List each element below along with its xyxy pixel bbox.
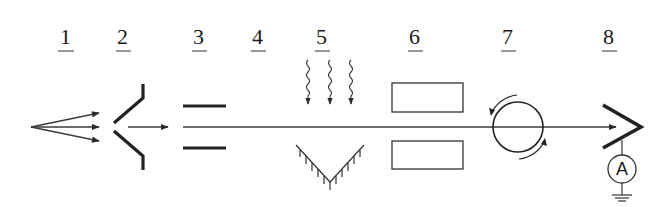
label-6-text: 6 — [409, 24, 420, 49]
label-4-text: 4 — [252, 24, 263, 49]
rectangular-electrodes-icon — [392, 83, 463, 169]
label-6: 6 — [408, 24, 423, 51]
label-1-text: 1 — [60, 24, 71, 49]
label-5-text: 5 — [316, 24, 327, 49]
label-3-text: 3 — [193, 24, 204, 49]
ammeter-icon: A — [608, 140, 636, 195]
label-7-text: 7 — [502, 24, 513, 49]
label-8-text: 8 — [603, 24, 614, 49]
label-5: 5 — [315, 24, 330, 51]
label-2: 2 — [116, 24, 131, 51]
label-8: 8 — [602, 24, 617, 51]
label-3: 3 — [192, 24, 207, 51]
diverging-source-arrows-icon — [31, 113, 99, 141]
component-labels: 1 2 3 4 5 6 7 8 — [58, 24, 617, 51]
v-mirror-icon — [296, 145, 364, 190]
label-7: 7 — [501, 24, 516, 51]
label-2-text: 2 — [117, 24, 128, 49]
label-1: 1 — [58, 24, 74, 51]
label-4: 4 — [251, 24, 266, 51]
wavy-radiation-arrows-icon — [307, 60, 353, 104]
beam-apparatus-diagram: 1 2 3 4 5 6 7 8 — [0, 0, 666, 207]
ground-icon — [612, 195, 632, 201]
ammeter-label: A — [616, 159, 628, 179]
